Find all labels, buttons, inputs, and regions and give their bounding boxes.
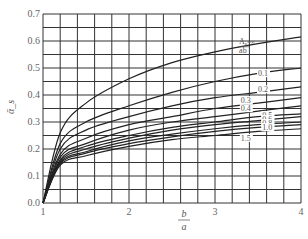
curve-1.0	[43, 125, 301, 203]
line-chart: As=∞ab0.10.20.30.40.50.60.81.01.5 0.00.1…	[0, 0, 308, 239]
svg-text:2: 2	[127, 206, 132, 217]
svg-text:ab: ab	[239, 46, 247, 55]
svg-text:0.1: 0.1	[28, 170, 41, 181]
svg-text:b: b	[182, 208, 187, 219]
svg-text:ᾱ_s: ᾱ_s	[5, 100, 16, 114]
svg-text:1.0: 1.0	[262, 123, 272, 132]
svg-text:0.0: 0.0	[28, 197, 41, 208]
svg-text:1: 1	[41, 206, 46, 217]
svg-text:0.6: 0.6	[28, 35, 41, 46]
svg-text:0.4: 0.4	[241, 104, 251, 113]
svg-text:0.3: 0.3	[28, 116, 41, 127]
svg-text:a: a	[182, 221, 187, 232]
x-axis-label: b a	[178, 208, 190, 232]
svg-text:0.2: 0.2	[28, 143, 41, 154]
svg-text:0.5: 0.5	[28, 62, 41, 73]
y-axis-ticks: 0.00.10.20.30.40.50.60.7	[28, 8, 41, 208]
svg-text:0.2: 0.2	[258, 85, 268, 94]
svg-text:0.1: 0.1	[258, 69, 268, 78]
svg-text:4: 4	[299, 206, 304, 217]
svg-text:0.4: 0.4	[28, 89, 41, 100]
svg-text:0.7: 0.7	[28, 8, 41, 19]
svg-text:1.5: 1.5	[241, 134, 251, 143]
grid	[43, 14, 301, 203]
svg-text:3: 3	[213, 206, 218, 217]
x-axis-ticks: 1234	[41, 206, 304, 217]
y-axis-label: ᾱ_s	[5, 100, 16, 114]
